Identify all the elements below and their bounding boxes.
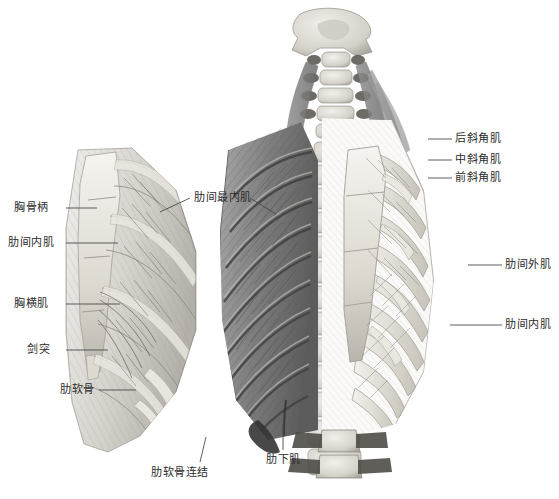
label-transversus-thoracis: 胸横肌 [14,298,49,310]
label-external-intercostal: 肋间外肌 [505,259,551,271]
label-posterior-scalene: 后斜角肌 [455,133,501,145]
label-internal-intercostal-left: 肋间内肌 [8,237,54,249]
label-manubrium: 胸骨柄 [14,202,49,214]
label-middle-scalene: 中斜角肌 [455,154,501,166]
label-anterior-scalene: 前斜角肌 [455,172,501,184]
label-costal-cartilage: 肋软骨 [60,384,95,396]
label-innermost-intercostal: 肋间最内肌 [194,192,252,204]
label-xiphoid-process: 剑突 [27,344,50,356]
label-subcostal: 肋下肌 [266,454,301,466]
label-costochondral-joint: 肋软骨连结 [151,467,209,479]
anatomy-illustration [0,0,559,499]
anatomy-figure: 胸骨柄肋间内肌胸横肌剑突肋软骨肋间最内肌肋软骨连结肋下肌后斜角肌中斜角肌前斜角肌… [0,0,559,499]
label-internal-intercostal-right: 肋间内肌 [505,319,551,331]
